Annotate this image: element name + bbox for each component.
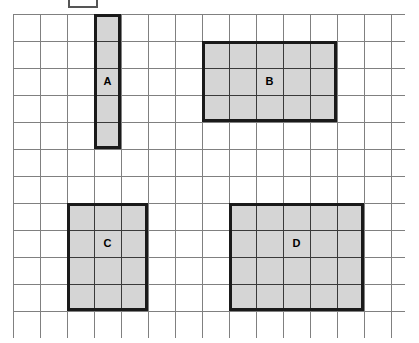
worksheet-canvas: ABCD	[0, 0, 419, 343]
grid-line-horizontal	[13, 311, 405, 312]
shape-a[interactable]: A	[94, 14, 121, 149]
shape-cell-divider-horizontal	[205, 95, 334, 96]
shape-d[interactable]: D	[229, 203, 364, 311]
shape-b[interactable]: B	[202, 41, 337, 122]
grid-line-horizontal	[13, 122, 405, 123]
shape-label-c: C	[70, 238, 145, 249]
shape-cell-divider-horizontal	[97, 41, 118, 42]
shape-cell-divider-horizontal	[97, 122, 118, 123]
shape-cell-divider-horizontal	[205, 68, 334, 69]
shape-c[interactable]: C	[67, 203, 148, 311]
shape-cell-divider-horizontal	[232, 230, 361, 231]
grid-line-horizontal	[13, 149, 405, 150]
shape-cell-divider-horizontal	[70, 284, 145, 285]
shape-cell-divider-horizontal	[232, 257, 361, 258]
grid-line-horizontal	[13, 14, 405, 15]
shape-label-d: D	[232, 238, 361, 249]
shape-cell-divider-horizontal	[232, 284, 361, 285]
shape-cell-divider-horizontal	[97, 68, 118, 69]
shape-cell-divider-vertical	[310, 44, 311, 119]
shape-cell-divider-horizontal	[70, 257, 145, 258]
shape-label-b: B	[205, 76, 334, 87]
shape-cell-divider-horizontal	[97, 95, 118, 96]
shape-cell-divider-vertical	[256, 44, 257, 119]
grid-line-horizontal	[13, 176, 405, 177]
shape-label-a: A	[97, 76, 118, 87]
unit-square-key-icon	[68, 0, 98, 8]
shape-cell-divider-vertical	[283, 44, 284, 119]
shape-cell-divider-vertical	[229, 44, 230, 119]
shape-cell-divider-horizontal	[70, 230, 145, 231]
